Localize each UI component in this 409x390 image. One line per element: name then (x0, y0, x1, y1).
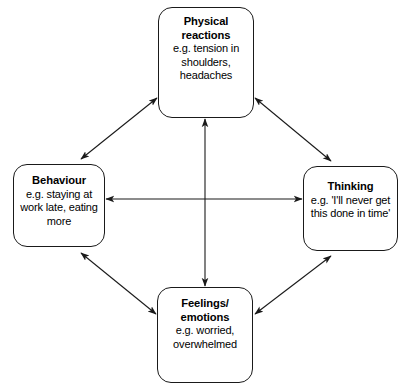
connector-feelings-thinking (255, 256, 331, 314)
node-behaviour-example: e.g. staying at work late, eating more (14, 188, 104, 229)
node-thinking-example: e.g. 'I'll never get this done in time' (304, 194, 397, 221)
node-thinking-title: Thinking (304, 180, 397, 194)
node-physical-reactions-title: Physical reactions (159, 15, 253, 42)
diagram-canvas: Physical reactions e.g. tension in shoul… (0, 0, 409, 390)
node-feelings-emotions-title: Feelings/ emotions (158, 297, 252, 324)
node-behaviour[interactable]: Behaviour e.g. staying at work late, eat… (13, 164, 105, 247)
connector-behaviour-feelings (81, 253, 156, 314)
node-feelings-emotions-example: e.g. worried, overwhelmed (158, 324, 252, 351)
connector-behaviour-physical (81, 98, 157, 159)
node-thinking[interactable]: Thinking e.g. 'I'll never get this done … (303, 166, 398, 251)
node-behaviour-title: Behaviour (14, 174, 104, 188)
node-feelings-emotions[interactable]: Feelings/ emotions e.g. worried, overwhe… (157, 287, 253, 383)
node-physical-reactions[interactable]: Physical reactions e.g. tension in shoul… (158, 7, 254, 118)
node-physical-reactions-example: e.g. tension in shoulders, headaches (159, 42, 253, 83)
connector-physical-thinking (255, 98, 331, 161)
